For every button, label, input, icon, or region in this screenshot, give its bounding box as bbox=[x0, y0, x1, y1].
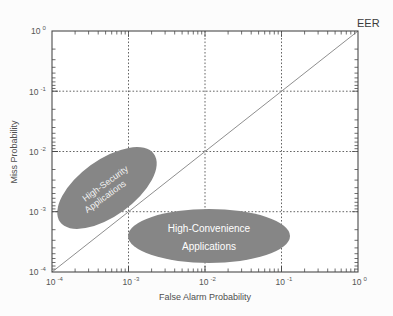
svg-text:-2: -2 bbox=[211, 276, 217, 282]
svg-text:-2: -2 bbox=[41, 146, 47, 152]
svg-text:10: 10 bbox=[29, 267, 39, 277]
det-plot-svg: High-Security Applications High-Convenie… bbox=[0, 0, 393, 316]
svg-text:10: 10 bbox=[46, 277, 56, 287]
svg-text:-3: -3 bbox=[41, 206, 47, 212]
y-tick-label-1: 10 -1 bbox=[29, 86, 46, 97]
high-convenience-ellipse bbox=[128, 209, 290, 263]
y-tick-labels: 10 0 10 -1 10 -2 10 -3 10 -4 bbox=[29, 25, 47, 277]
x-tick-labels: 10 -4 10 -3 10 -2 10 -1 10 0 bbox=[46, 276, 368, 287]
svg-text:-3: -3 bbox=[134, 276, 140, 282]
x-tick-label-4: 10 0 bbox=[352, 276, 368, 287]
x-tick-label-1: 10 -3 bbox=[123, 276, 140, 287]
svg-text:10: 10 bbox=[31, 26, 41, 36]
svg-text:0: 0 bbox=[364, 276, 368, 282]
x-tick-label-0: 10 -4 bbox=[46, 276, 63, 287]
svg-text:10: 10 bbox=[29, 147, 39, 157]
svg-text:10: 10 bbox=[276, 277, 286, 287]
svg-text:-1: -1 bbox=[287, 276, 293, 282]
svg-text:-4: -4 bbox=[41, 266, 47, 272]
svg-text:10: 10 bbox=[123, 277, 133, 287]
y-axis-title: Miss Probability bbox=[9, 120, 19, 184]
x-tick-label-2: 10 -2 bbox=[199, 276, 216, 287]
y-tick-label-4: 10 -4 bbox=[29, 266, 46, 277]
svg-text:10: 10 bbox=[199, 277, 209, 287]
high-convenience-label-line2: Applications bbox=[182, 241, 236, 252]
eer-annotation: EER bbox=[357, 17, 380, 29]
svg-text:10: 10 bbox=[352, 277, 362, 287]
y-tick-label-3: 10 -3 bbox=[29, 206, 46, 217]
det-curve-figure: High-Security Applications High-Convenie… bbox=[0, 0, 393, 316]
svg-text:-4: -4 bbox=[58, 276, 64, 282]
svg-text:-1: -1 bbox=[41, 86, 47, 92]
high-convenience-label-line1: High-Convenience bbox=[168, 223, 251, 234]
svg-text:10: 10 bbox=[29, 87, 39, 97]
x-tick-label-3: 10 -1 bbox=[276, 276, 293, 287]
y-tick-label-0: 10 0 bbox=[31, 25, 47, 36]
svg-text:10: 10 bbox=[29, 207, 39, 217]
x-axis-title: False Alarm Probability bbox=[159, 292, 252, 302]
svg-text:0: 0 bbox=[43, 25, 47, 31]
region-high-convenience: High-Convenience Applications bbox=[128, 209, 290, 263]
y-tick-label-2: 10 -2 bbox=[29, 146, 46, 157]
